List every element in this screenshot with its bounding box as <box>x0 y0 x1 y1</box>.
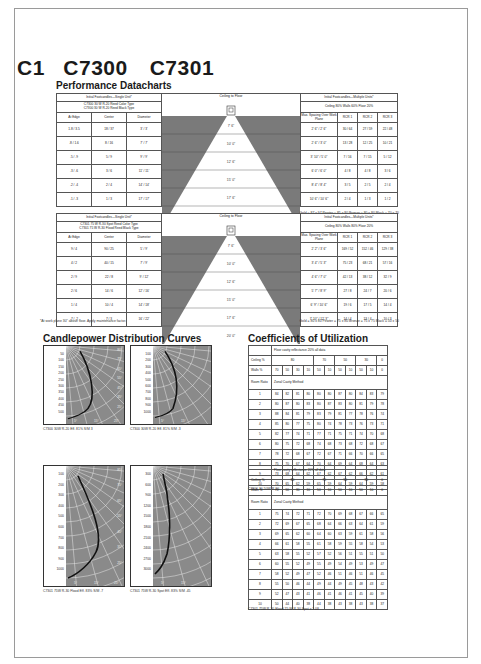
cou-value: 40 <box>366 590 377 600</box>
candela-tick: 100 <box>46 358 64 362</box>
cou-value: 55 <box>293 550 304 560</box>
cou-row: 68075726874687368726867 <box>249 440 388 450</box>
polar-grid-lines <box>66 466 124 586</box>
cell-center: 8 / 16 <box>92 137 127 151</box>
svg-text:17' 6": 17' 6" <box>227 196 236 200</box>
cou-value: 80 <box>293 400 304 410</box>
col-max-spacing: Max. Spacing Over Work Plane <box>301 233 338 243</box>
room-ratio: 4 <box>249 420 272 430</box>
cou-value: 78 <box>356 410 367 420</box>
cou-value: 79 <box>303 410 314 420</box>
cou-value: 84 <box>282 410 293 420</box>
cou-row: 46661585561585955585453 <box>249 540 388 550</box>
polar-grid-lines <box>153 346 211 424</box>
cou-value: 61 <box>356 530 367 540</box>
cou-value: 75 <box>335 430 346 440</box>
room-ratio: 6 <box>249 560 272 570</box>
cou-value: 51 <box>356 570 367 580</box>
cou-value: 65 <box>303 520 314 530</box>
svg-text:20' 0": 20' 0" <box>227 334 236 338</box>
angle-label: 25° <box>117 405 122 409</box>
cou-value: 57 <box>314 550 325 560</box>
cell-rcr2: 27 / 59 <box>358 123 378 137</box>
cell-rcr1: 169 / 52 <box>338 243 358 257</box>
cell-spacing: 8' 4" / 8' 4" <box>301 179 338 193</box>
cou-value: 79 <box>366 400 377 410</box>
ceiling-to-floor-title: Ceiling to Floor <box>162 95 300 99</box>
svg-text:15' 0": 15' 0" <box>227 178 236 182</box>
cell-center: 14 / 6 <box>92 285 127 299</box>
cou-value: 46 <box>345 570 356 580</box>
cell-edge: 1.8 / 3.5 <box>57 123 92 137</box>
cell-rcr3: 129 / 38 <box>378 243 398 257</box>
cell-rcr1: 27 / 8 <box>338 285 358 299</box>
cou-row: 28087808380878380817978 <box>249 400 388 410</box>
walls-value: 50 <box>314 366 325 376</box>
candela-tick: 150 <box>46 365 64 369</box>
cou-value: 46 <box>335 590 346 600</box>
bottom-angle-label: 5° <box>74 419 77 423</box>
cou-value: 75 <box>272 510 283 520</box>
angle-label: 25° <box>117 561 122 565</box>
cou-value: 81 <box>293 390 304 400</box>
candela-tick: 1000 <box>46 567 64 571</box>
cou-value: 77 <box>282 430 293 440</box>
walls-value: 30 <box>293 366 304 376</box>
cou-title: Coefficients of Utilization <box>248 333 368 344</box>
cou-value: 72 <box>293 440 304 450</box>
cou-value: 48 <box>356 580 367 590</box>
cou-value: 47 <box>377 560 388 570</box>
cou-value: 50 <box>282 580 293 590</box>
cou-value: 72 <box>282 450 293 460</box>
svg-text:12' 6": 12' 6" <box>227 280 236 284</box>
cou-value: 38 <box>324 600 335 610</box>
room-ratio: 3 <box>249 530 272 540</box>
cou-value: 72 <box>314 510 325 520</box>
candela-tick: 3000 <box>133 567 151 571</box>
cell-rcr1: 3 / 5 <box>338 179 358 193</box>
cell-spacing: 4' 6" / 7' 0" <box>301 271 338 285</box>
cou-value: 73 <box>335 440 346 450</box>
cou-value: 66 <box>272 540 283 550</box>
cou-value: 81 <box>293 410 304 420</box>
reflectance-values: Ceiling 80% Walls 60% Floor 20% <box>301 102 398 113</box>
candela-tick: 1200 <box>133 504 151 508</box>
cell-rcr1: 75 / 23 <box>338 257 358 271</box>
candela-tick: 1000 <box>133 410 151 414</box>
cou-value: 46 <box>324 570 335 580</box>
angle-label: 45° <box>117 386 122 390</box>
candela-tick: 400 <box>133 371 151 375</box>
cell-diameter: 16' / 22' <box>127 313 162 327</box>
angle-label: 75° <box>117 357 122 361</box>
angle-label: 55° <box>117 376 122 380</box>
single-unit-title: Initial Footcandles—Single Unit* <box>57 94 162 102</box>
cou-value: 80 <box>345 390 356 400</box>
chart-caption: C7300 30W R-20 Eff. 81% S/M 3 <box>43 427 93 431</box>
room-ratio: 2 <box>249 520 272 530</box>
cell-rcr2: 1 / 3 <box>358 193 378 207</box>
col-center: Center <box>92 233 127 243</box>
cou-value: 80 <box>314 400 325 410</box>
cou-value: 72 <box>356 440 367 450</box>
cell-rcr1: 2 / 4 <box>338 193 358 207</box>
cell-rcr2: 152 / 46 <box>358 243 378 257</box>
room-ratio: 2 <box>249 400 272 410</box>
cou-value: 60 <box>272 560 283 570</box>
cou-value: 84 <box>356 390 367 400</box>
cou-row: 58277747177717571747068 <box>249 430 388 440</box>
cou-value: 43 <box>356 600 367 610</box>
lamp-line-2: C7301 75 W R-30 Flood Reed Black Type <box>57 227 161 231</box>
cell-rcr1: 13 / 28 <box>338 137 358 151</box>
method-label: Zonal Cavity Method <box>272 376 388 390</box>
cou-value: 78 <box>272 450 283 460</box>
candela-tick: 2100 <box>133 536 151 540</box>
walls-value: 50 <box>356 486 367 496</box>
cou-value: 38 <box>366 600 377 610</box>
cou-value: 68 <box>314 520 325 530</box>
candela-tick: 400 <box>46 397 64 401</box>
cell-spacing: 3' 4" / 5' 3" <box>301 257 338 271</box>
candlepower-title: Candlepower Distribution Curves <box>43 333 201 344</box>
cou-row: 85550464449444945484342 <box>249 580 388 590</box>
candlepower-chart: 100200300400500600700800900100085°75°65°… <box>43 465 125 587</box>
cou-value: 69 <box>335 510 346 520</box>
